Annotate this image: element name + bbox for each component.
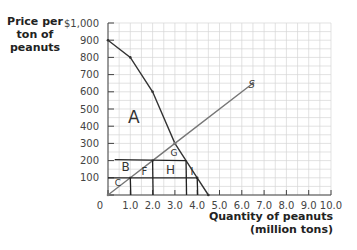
y-tick-label: 500: [80, 104, 99, 115]
chart-plot: 01.02.03.04.05.06.07.08.09.010.0$1,00090…: [0, 0, 357, 250]
x-tick-label: 1.0: [122, 200, 138, 211]
quantity-line: [153, 161, 154, 195]
demand-point: [207, 194, 210, 197]
y-tick-label: 400: [80, 121, 99, 132]
region-label: I: [191, 166, 194, 177]
quantity-line: [186, 161, 187, 195]
x-tick-label: 6.0: [234, 200, 250, 211]
y-tick-label: $1,000: [64, 18, 99, 29]
quantity-line: [197, 178, 198, 195]
supply-point: [174, 142, 177, 145]
x-tick-label: 5.0: [212, 200, 228, 211]
region-label: H: [166, 163, 175, 177]
demand-point: [151, 91, 154, 94]
x-tick-label: 2.0: [145, 200, 161, 211]
demand-point: [129, 56, 132, 59]
x-tick-label: 4.0: [189, 200, 205, 211]
demand-point: [107, 39, 110, 42]
x-tick-label: 10.0: [320, 200, 342, 211]
x-tick-label: 8.0: [278, 200, 294, 211]
x-tick-label: 3.0: [167, 200, 183, 211]
y-tick-label: 700: [80, 69, 99, 80]
region-label: B: [121, 160, 129, 174]
x-tick-label: 0: [97, 200, 103, 211]
region-label: A: [128, 107, 140, 127]
y-tick-label: 600: [80, 86, 99, 97]
y-tick-label: 200: [80, 155, 99, 166]
x-tick-label: 9.0: [301, 200, 317, 211]
region-label: F: [141, 166, 147, 177]
y-tick-label: 300: [80, 138, 99, 149]
supply-curve-label: S: [248, 79, 255, 90]
quantity-line: [130, 178, 131, 195]
y-tick-label: 100: [80, 172, 99, 183]
supply-point: [107, 194, 110, 197]
x-tick-label: 7.0: [256, 200, 272, 211]
region-label: C: [115, 178, 121, 188]
region-label: G: [170, 148, 177, 158]
y-tick-label: 800: [80, 52, 99, 63]
y-tick-label: 900: [80, 35, 99, 46]
